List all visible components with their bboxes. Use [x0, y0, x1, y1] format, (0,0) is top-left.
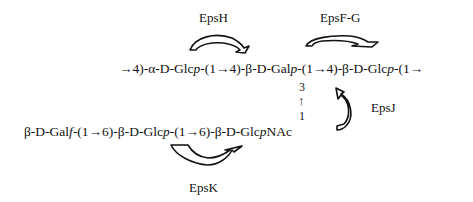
epsj-curved-arrow-icon	[336, 88, 351, 130]
epsfg-curved-arrow-icon	[306, 36, 378, 47]
main-chain-seg4: -(1→	[394, 61, 423, 76]
side-chain-seg4: NAc	[267, 124, 293, 139]
side-chain-seg1: β-D-Gal	[24, 124, 69, 139]
side-chain-seg2-ring: p	[163, 124, 170, 139]
enzyme-label-epsfg: EpsF-G	[320, 11, 360, 24]
side-chain-seg2: -(1→6)-β-D-Glc	[73, 124, 163, 139]
enzyme-label-epsj: EpsJ	[371, 101, 396, 114]
branch-link-up-arrow-icon: ↑	[298, 94, 305, 107]
main-chain: →4)-α-D-Glcp-(1→4)-β-D-Galp-(1→4)-β-D-Gl…	[119, 62, 423, 76]
branch-link-position-3: 3	[299, 81, 305, 93]
enzyme-label-epsh: EpsH	[199, 11, 228, 24]
main-chain-seg3-ring: p	[387, 61, 394, 76]
epsk-curved-arrow-icon	[171, 145, 242, 165]
main-chain-seg3: -(1→4)-β-D-Glc	[297, 61, 387, 76]
epsh-curved-arrow-icon	[190, 35, 249, 53]
branch-link-position-1: 1	[299, 110, 305, 122]
side-chain-seg3-ring: p	[260, 124, 267, 139]
main-chain-seg2: -(1→4)-β-D-Gal	[200, 61, 290, 76]
enzyme-label-epsk: EpsK	[189, 181, 218, 194]
main-chain-seg1: →4)-α-D-Glc	[119, 61, 194, 76]
enzyme-arrows	[0, 0, 473, 202]
side-chain-seg3: -(1→6)-β-D-Glc	[170, 124, 260, 139]
side-chain: β-D-Galf-(1→6)-β-D-Glcp-(1→6)-β-D-GlcpNA…	[24, 125, 292, 139]
